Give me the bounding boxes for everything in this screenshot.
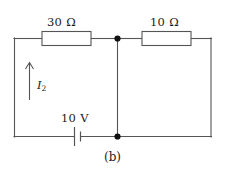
voltage-source-label: 10 V (61, 113, 89, 125)
current-subscript: 2 (42, 84, 47, 93)
resistor-right-body (142, 32, 191, 46)
circuit-figure: 30 Ω 10 Ω 10 V I2 (b) (0, 0, 227, 172)
node-top-center-dot (114, 35, 120, 41)
current-arrow-i2 (26, 63, 34, 101)
battery-symbol (75, 127, 81, 146)
resistor-right-label: 10 Ω (150, 17, 179, 29)
circuit-diagram-svg (0, 0, 227, 172)
figure-caption: (b) (104, 151, 121, 163)
resistor-left-label: 30 Ω (47, 17, 76, 29)
resistor-left-body (42, 32, 91, 46)
current-label: I2 (37, 80, 46, 92)
node-bottom-center-dot (114, 133, 120, 139)
